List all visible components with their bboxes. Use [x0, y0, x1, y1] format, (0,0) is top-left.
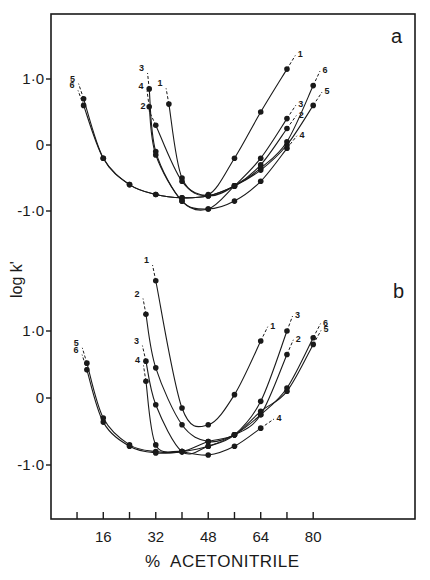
curve-label: 1: [144, 255, 149, 265]
x-tick-label: 16: [95, 528, 112, 545]
data-point: [284, 139, 290, 145]
data-point: [232, 432, 238, 438]
data-point: [143, 358, 149, 364]
curve-1: [156, 281, 261, 427]
data-point: [232, 198, 238, 204]
y-tick-label: 0: [36, 389, 44, 406]
data-point: [179, 449, 185, 455]
x-tick-label: 48: [200, 528, 217, 545]
data-point: [179, 405, 185, 411]
curve-label: 2: [296, 334, 301, 344]
data-point: [232, 392, 238, 398]
curve-label: 3: [139, 63, 144, 73]
curve-3: [146, 331, 287, 454]
curve-label: 4: [299, 130, 304, 140]
data-point: [258, 412, 264, 418]
data-point: [284, 352, 290, 358]
data-point: [258, 155, 264, 161]
curve-label: 2: [135, 289, 140, 299]
data-point: [232, 155, 238, 161]
curve-6: [87, 338, 313, 454]
curve-4: [146, 381, 261, 455]
data-point: [258, 179, 264, 185]
curve-label: 3: [298, 99, 303, 109]
curve-label: 1: [298, 49, 303, 59]
data-point: [153, 192, 159, 198]
curve-label: 4: [276, 413, 281, 423]
data-point: [284, 116, 290, 122]
curve-label: 2: [140, 101, 145, 111]
curve-label: 1: [270, 321, 275, 331]
data-point: [205, 193, 211, 199]
data-point: [284, 126, 290, 132]
data-point: [284, 328, 290, 334]
data-point: [232, 183, 238, 189]
data-point: [232, 443, 238, 449]
panel-a-label: a: [391, 25, 402, 48]
data-point: [143, 311, 149, 317]
chromatography-figure: 16324864801·00-1·01122334455661·00-1·011…: [0, 0, 430, 580]
data-point: [258, 165, 264, 171]
curve-label: 4: [139, 81, 144, 91]
y-tick-label: 0: [36, 136, 44, 153]
curve-label: 6: [74, 345, 79, 355]
data-point: [258, 338, 264, 344]
curve-label: 5: [325, 86, 330, 96]
y-tick-label: -1·0: [17, 456, 44, 473]
data-point: [127, 182, 133, 188]
data-point: [166, 101, 172, 107]
data-point: [205, 422, 211, 428]
data-point: [100, 419, 106, 425]
data-point: [205, 443, 211, 449]
data-point: [100, 155, 106, 161]
data-point: [179, 179, 185, 185]
curve-5: [84, 99, 314, 198]
data-point: [258, 109, 264, 115]
x-tick-label: 32: [147, 528, 164, 545]
data-point: [153, 122, 159, 128]
plot-frame: [51, 14, 415, 519]
data-point: [146, 104, 152, 110]
data-point: [143, 378, 149, 384]
data-point: [84, 367, 90, 373]
curve-label: 6: [322, 65, 327, 75]
data-point: [258, 399, 264, 405]
curve-label: 1: [158, 78, 163, 88]
x-tick-label: 64: [252, 528, 269, 545]
data-point: [153, 152, 159, 158]
data-point: [310, 103, 316, 109]
y-tick-label: 1·0: [22, 70, 44, 87]
curve-1: [169, 69, 287, 195]
plot-area: 16324864801·00-1·01122334455661·00-1·011…: [0, 0, 430, 580]
x-tick-label: 80: [305, 528, 322, 545]
y-tick-label: -1·0: [17, 202, 44, 219]
data-point: [153, 450, 159, 456]
curve-label: 6: [323, 318, 328, 328]
curve-label: 2: [299, 110, 304, 120]
data-point: [310, 83, 316, 89]
data-point: [310, 335, 316, 341]
data-point: [153, 402, 159, 408]
panel-b-label: b: [393, 280, 404, 303]
curve-5: [87, 344, 313, 452]
data-point: [205, 206, 211, 212]
data-point: [284, 385, 290, 391]
curve-label: 4: [135, 355, 140, 365]
curve-label: 3: [134, 336, 139, 346]
curve-label: 3: [295, 310, 300, 320]
data-point: [153, 442, 159, 448]
data-point: [179, 195, 185, 201]
data-point: [127, 443, 133, 449]
curve-label: 6: [70, 80, 75, 90]
y-axis-label: log k': [8, 261, 26, 298]
data-point: [258, 425, 264, 431]
x-axis-label: % ACETONITRILE: [145, 552, 300, 572]
curve-2: [156, 125, 287, 196]
curve-6: [84, 86, 314, 198]
curve-2: [146, 314, 287, 442]
data-point: [153, 365, 159, 371]
data-point: [205, 452, 211, 458]
data-point: [153, 278, 159, 284]
y-tick-label: 1·0: [22, 322, 44, 339]
data-point: [284, 66, 290, 72]
